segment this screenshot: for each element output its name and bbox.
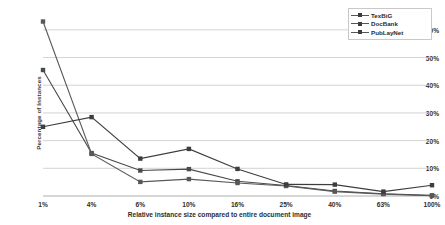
x-tick-label: 40% bbox=[315, 201, 355, 208]
legend-label: DocBank bbox=[369, 20, 398, 27]
data-point-marker bbox=[187, 147, 191, 151]
chart-legend: TexBiG DocBank PubLayNet bbox=[348, 8, 432, 40]
x-tick-label: 1% bbox=[23, 201, 63, 208]
data-point-marker bbox=[138, 180, 142, 184]
data-point-marker bbox=[138, 156, 142, 160]
data-point-marker bbox=[89, 115, 93, 119]
data-point-marker bbox=[430, 194, 434, 198]
legend-line-marker-icon bbox=[351, 28, 369, 36]
data-point-marker bbox=[235, 167, 239, 171]
data-point-marker bbox=[333, 182, 337, 186]
legend-label: PubLayNet bbox=[369, 29, 403, 36]
data-point-marker bbox=[430, 183, 434, 187]
legend-line-marker-icon bbox=[351, 20, 369, 28]
data-point-marker bbox=[41, 125, 45, 129]
data-point-marker bbox=[333, 189, 337, 193]
data-point-marker bbox=[138, 168, 142, 172]
x-tick-label: 4% bbox=[72, 201, 112, 208]
data-point-marker bbox=[381, 189, 385, 193]
data-point-marker bbox=[187, 177, 191, 181]
data-point-marker bbox=[41, 19, 45, 23]
x-axis-title: Relative instance size compared to entir… bbox=[0, 211, 439, 218]
x-tick-label: 25% bbox=[266, 201, 306, 208]
data-point-marker bbox=[235, 181, 239, 185]
data-point-marker bbox=[187, 167, 191, 171]
data-point-marker bbox=[41, 68, 45, 72]
x-tick-label: 63% bbox=[363, 201, 403, 208]
legend-item-docbank[interactable]: DocBank bbox=[351, 20, 428, 29]
x-tick-label: 10% bbox=[169, 201, 209, 208]
series-line bbox=[43, 70, 432, 195]
data-point-marker bbox=[89, 152, 93, 156]
legend-line-marker-icon bbox=[351, 11, 369, 19]
x-tick-label: 100% bbox=[412, 201, 445, 208]
legend-label: TexBiG bbox=[369, 12, 392, 19]
data-point-marker bbox=[284, 182, 288, 186]
legend-item-texbig[interactable]: TexBiG bbox=[351, 11, 428, 20]
legend-item-publaynet[interactable]: PubLayNet bbox=[351, 28, 428, 37]
x-tick-label: 16% bbox=[218, 201, 258, 208]
x-tick-label: 6% bbox=[120, 201, 160, 208]
